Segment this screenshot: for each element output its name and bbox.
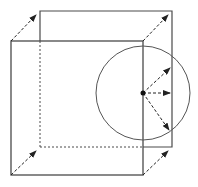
center-point (141, 91, 146, 96)
hidden-edges (40, 41, 143, 147)
cube-field-diagram (0, 0, 198, 187)
back-face-edges (40, 11, 172, 147)
corner-arrow-icon (143, 151, 168, 175)
back-face (40, 11, 172, 147)
diagram-canvas (0, 0, 198, 187)
radial-arrow-icon (143, 68, 170, 93)
front-face (11, 41, 143, 175)
radial-arrow-icon (143, 93, 169, 130)
radial-arrows (143, 68, 170, 130)
center-point-dot (141, 91, 146, 96)
corner-arrow-icon (143, 15, 168, 41)
front-face-rect (11, 41, 143, 175)
corner-arrow-icon (11, 151, 36, 175)
corner-arrow-icon (11, 15, 36, 41)
